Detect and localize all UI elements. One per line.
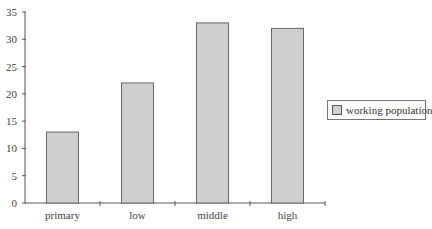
y-tick-label: 15	[6, 115, 18, 127]
y-tick-label: 0	[12, 197, 18, 209]
bar-primary	[47, 132, 79, 203]
x-tick-label: low	[129, 209, 146, 221]
bar-low	[122, 83, 154, 203]
x-tick-label: primary	[45, 209, 80, 221]
y-tick-label: 5	[12, 170, 18, 182]
y-tick-label: 25	[6, 61, 18, 73]
legend: working population	[327, 100, 426, 120]
x-tick-label: middle	[197, 209, 228, 221]
y-tick-label: 10	[6, 142, 18, 154]
legend-swatch-icon	[332, 105, 342, 115]
bar-high	[272, 28, 304, 203]
bar-middle	[197, 23, 229, 203]
y-tick-label: 20	[6, 88, 18, 100]
x-tick-label: high	[278, 209, 298, 221]
y-tick-label: 30	[6, 33, 18, 45]
legend-label: working population	[346, 104, 432, 116]
y-tick-label: 35	[6, 6, 18, 18]
